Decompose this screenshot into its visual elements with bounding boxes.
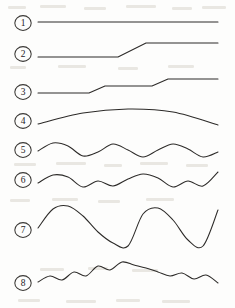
row-marker-label-7: 7 — [21, 225, 26, 235]
curve-line-8 — [38, 262, 218, 283]
curve-pattern-figure: 1 2 3 4 5 6 7 — [0, 0, 235, 308]
curve-row-4: 4 — [15, 109, 218, 128]
row-marker-label-6: 6 — [21, 175, 26, 185]
curve-line-4 — [38, 109, 218, 125]
curve-row-1: 1 — [15, 16, 218, 31]
curve-line-2 — [38, 43, 218, 57]
curve-row-2: 2 — [15, 43, 218, 61]
curve-line-7 — [38, 205, 218, 247]
curve-row-8: 8 — [15, 262, 218, 291]
row-marker-label-4: 4 — [21, 116, 26, 126]
curve-row-5: 5 — [15, 143, 218, 158]
paper-specks — [8, 5, 226, 303]
row-marker-label-8: 8 — [21, 278, 26, 288]
curve-line-5 — [38, 143, 218, 157]
row-marker-label-2: 2 — [21, 49, 26, 59]
curve-row-7: 7 — [15, 205, 218, 247]
curve-row-3: 3 — [15, 79, 218, 99]
curve-row-6: 6 — [15, 172, 218, 187]
row-marker-label-3: 3 — [21, 87, 26, 97]
curve-line-6 — [38, 172, 218, 187]
curve-line-3 — [38, 79, 218, 93]
row-marker-label-1: 1 — [21, 18, 26, 28]
figure-canvas: 1 2 3 4 5 6 7 — [0, 0, 235, 308]
row-marker-label-5: 5 — [21, 145, 26, 155]
